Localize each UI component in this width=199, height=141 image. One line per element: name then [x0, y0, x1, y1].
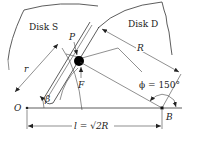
b-label: B — [165, 112, 173, 122]
point-b — [161, 107, 164, 110]
o-label: O — [14, 103, 22, 113]
l-label: l = √2R — [74, 121, 109, 131]
disk-slot-mechanism-diagram: P F r R β ϕ = 150° O B l = √2R Disk S Di… — [0, 0, 199, 141]
ball — [74, 56, 84, 66]
f-label: F — [77, 80, 85, 90]
p-label: P — [68, 32, 76, 42]
disk-s-label: Disk S — [29, 22, 58, 32]
R-label: R — [136, 43, 144, 53]
beta-label: β — [44, 94, 50, 104]
phi-label: ϕ = 150° — [139, 80, 180, 90]
disk-d-label: Disk D — [128, 19, 158, 29]
beta-arc — [40, 96, 44, 108]
r-label: r — [24, 64, 29, 74]
point-o — [26, 107, 29, 110]
phi-arc — [150, 94, 176, 107]
